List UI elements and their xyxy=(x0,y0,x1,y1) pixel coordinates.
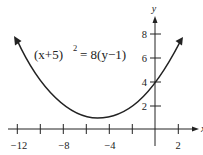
x-tick-label: 2 xyxy=(175,140,180,151)
parabola-chart: −12 −8 −4 2 2 4 6 8 y x (x+5) 2 = 8(y−1) xyxy=(0,0,203,155)
equation-exponent: 2 xyxy=(73,43,77,53)
equation-rhs: = 8(y−1) xyxy=(80,47,126,62)
y-tick-label: 2 xyxy=(142,101,147,112)
y-axis-arrow-icon xyxy=(153,16,158,23)
y-axis-label: y xyxy=(151,3,157,14)
y-tick-label: 6 xyxy=(142,53,147,64)
equation-lhs: (x+5) xyxy=(34,47,63,62)
curve-arrow-left-icon xyxy=(14,36,22,46)
x-tick-label: −8 xyxy=(58,140,69,151)
x-axis-label: x xyxy=(200,123,203,134)
x-tick-label: −4 xyxy=(104,140,116,151)
y-tick-label: 8 xyxy=(142,29,147,40)
x-tick-label: −12 xyxy=(11,140,27,151)
y-tick-label: 4 xyxy=(142,77,148,88)
x-axis-arrow-icon xyxy=(192,127,199,132)
equation-label: (x+5) 2 = 8(y−1) xyxy=(34,43,126,62)
